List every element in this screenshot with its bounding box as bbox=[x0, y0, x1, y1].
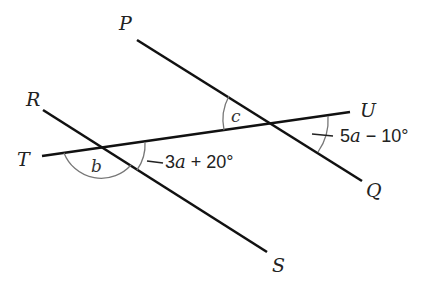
line-tu bbox=[42, 112, 350, 156]
expression-5a-minus-10: 5a − 10° bbox=[340, 125, 408, 146]
geometry-diagram: P R T U Q S b c 3a + 20° 5a − 10° bbox=[0, 0, 441, 291]
angle-5a-tick bbox=[312, 134, 333, 136]
label-r: R bbox=[25, 88, 40, 110]
line-rs bbox=[43, 110, 267, 252]
angle-3a-arc bbox=[137, 142, 145, 170]
angle-c-arc bbox=[223, 96, 229, 130]
label-p: P bbox=[118, 12, 133, 34]
label-u: U bbox=[360, 99, 377, 121]
angle-c-label: c bbox=[231, 106, 241, 126]
label-q: Q bbox=[366, 179, 382, 201]
label-t: T bbox=[17, 148, 31, 170]
label-s: S bbox=[272, 254, 285, 276]
angle-b-label: b bbox=[91, 156, 102, 176]
angle-3a-tick bbox=[147, 161, 163, 163]
expression-3a-plus-20: 3a + 20° bbox=[165, 151, 233, 172]
diagram-svg: P R T U Q S b c 3a + 20° 5a − 10° bbox=[0, 0, 441, 291]
